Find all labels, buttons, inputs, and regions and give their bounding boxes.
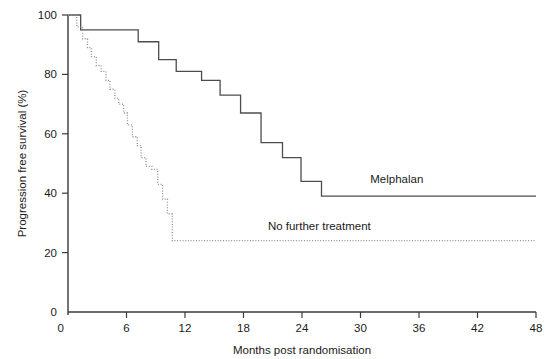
y-axis-title: Progression free survival (%) <box>16 90 28 238</box>
y-tick-label: 100 <box>38 9 57 21</box>
x-tick-label: 30 <box>354 322 367 334</box>
kaplan-meier-figure: 020406080100 0612182430364248 Melphalan … <box>0 0 550 359</box>
chart-background <box>0 0 550 359</box>
x-tick-label: 36 <box>413 322 426 334</box>
y-tick-label: 40 <box>44 187 57 199</box>
survival-curve-chart: 020406080100 0612182430364248 Melphalan … <box>0 0 550 359</box>
series-label-no-further-treatment: No further treatment <box>268 220 372 232</box>
y-tick-label: 60 <box>44 128 57 140</box>
x-tick-label: 24 <box>296 322 309 334</box>
x-tick-label: 0 <box>58 322 64 334</box>
x-tick-label: 48 <box>530 322 543 334</box>
x-tick-label: 6 <box>123 322 129 334</box>
series-label-melphalan: Melphalan <box>370 173 423 185</box>
x-axis-title: Months post randomisation <box>233 344 371 356</box>
y-tick-label: 0 <box>51 306 57 318</box>
y-tick-label: 20 <box>44 247 57 259</box>
x-tick-label: 42 <box>471 322 484 334</box>
x-tick-label: 12 <box>179 322 192 334</box>
y-tick-label: 80 <box>44 68 57 80</box>
x-tick-label: 18 <box>237 322 250 334</box>
